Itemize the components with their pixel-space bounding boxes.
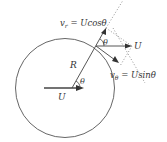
cylinder-flow-diagram: vr = Ucosθ θ U R θ U vθ = Usinθ: [0, 0, 167, 142]
vtheta-label: vθ = Usinθ: [110, 70, 156, 81]
theta-label-surface: θ: [103, 38, 108, 47]
vtheta-arrowhead: [112, 56, 119, 63]
vr-arrowhead: [101, 28, 106, 35]
r-label: R: [69, 60, 77, 70]
u-label-center: U: [58, 92, 66, 102]
vtheta-arrow: [96, 46, 115, 60]
vr-label: vr = Ucosθ: [60, 18, 107, 29]
dotted-projection-vr: [106, 28, 132, 46]
dotted-projection-vtheta: [120, 46, 132, 66]
surface-u-arrowhead: [125, 44, 132, 49]
u-label-right: U: [134, 41, 142, 51]
dotted-radial-extension: [106, 0, 125, 28]
theta-label-center: θ: [80, 77, 85, 86]
